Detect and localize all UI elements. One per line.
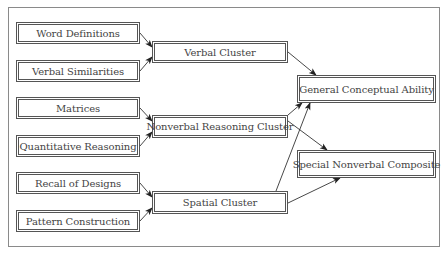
node-label: Nonverbal Reasoning Cluster [147,121,294,132]
node-matrices: Matrices [16,97,140,119]
node-spatial-cluster: Spatial Cluster [152,191,288,214]
node-label: Verbal Similarities [32,66,124,77]
node-nonverbal-reasoning-cluster: Nonverbal Reasoning Cluster [152,115,288,138]
arrow-verbal-cluster-to-general-conceptual-ability [288,52,316,75]
arrow-recall-of-designs-to-spatial-cluster [140,183,152,197]
node-label: General Conceptual Ability [299,84,434,95]
node-label: Pattern Construction [26,216,130,227]
node-label: Verbal Cluster [184,47,255,58]
arrow-pattern-construction-to-spatial-cluster [140,208,152,221]
node-label: Matrices [56,103,100,114]
arrow-verbal-similarities-to-verbal-cluster [140,57,152,71]
arrow-spatial-cluster-to-special-nonverbal-composite [288,178,340,203]
node-recall-of-designs: Recall of Designs [16,172,140,194]
arrow-word-definitions-to-verbal-cluster [140,33,152,47]
node-pattern-construction: Pattern Construction [16,210,140,232]
node-general-conceptual-ability: General Conceptual Ability [297,75,436,103]
node-label: Word Definitions [36,28,120,39]
node-verbal-similarities: Verbal Similarities [16,60,140,82]
node-special-nonverbal-composite: Special Nonverbal Composite [297,150,436,178]
node-quantitative-reasoning: Quantitative Reasoning [16,135,140,157]
node-label: Quantitative Reasoning [19,141,136,152]
node-label: Recall of Designs [35,178,121,189]
arrow-quantitative-reasoning-to-nonverbal-reasoning-cluster [140,132,152,146]
arrow-nonverbal-reasoning-cluster-to-general-conceptual-ability [288,103,302,115]
node-verbal-cluster: Verbal Cluster [152,41,288,63]
node-word-definitions: Word Definitions [16,22,140,44]
arrow-matrices-to-nonverbal-reasoning-cluster [140,108,152,121]
node-label: Spatial Cluster [183,197,257,208]
node-label: Special Nonverbal Composite [293,159,441,170]
